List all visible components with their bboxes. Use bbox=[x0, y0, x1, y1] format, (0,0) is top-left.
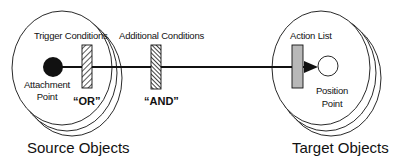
or-label: “OR” bbox=[73, 95, 101, 107]
position-label-line1: Position bbox=[312, 84, 352, 97]
position-point-circle bbox=[318, 56, 338, 76]
attachment-point-dot bbox=[43, 57, 63, 77]
trigger-conditions-block bbox=[82, 45, 92, 88]
attachment-label-line1: Attachment bbox=[22, 79, 72, 91]
target-objects-label: Target Objects bbox=[292, 139, 389, 156]
attachment-point-label: Attachment Point bbox=[22, 79, 72, 103]
trigger-conditions-label: Trigger Conditions bbox=[34, 30, 108, 41]
position-point-label: Position Point bbox=[312, 84, 352, 110]
trigger-action-diagram: Trigger Conditions Attachment Point “OR”… bbox=[0, 0, 394, 165]
additional-conditions-label: Additional Conditions bbox=[119, 30, 204, 41]
action-list-label: Action List bbox=[290, 30, 332, 41]
action-list-block bbox=[292, 45, 303, 88]
source-objects-label: Source Objects bbox=[27, 139, 130, 156]
attachment-label-line2: Point bbox=[22, 91, 72, 103]
and-label: “AND” bbox=[144, 95, 179, 107]
position-label-line2: Point bbox=[312, 97, 352, 110]
additional-conditions-block bbox=[151, 45, 161, 89]
